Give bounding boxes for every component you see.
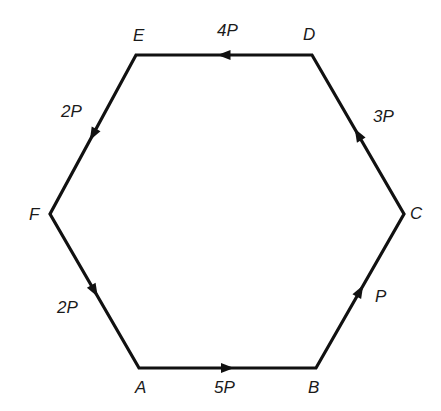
vertex-label-b: B	[308, 378, 319, 397]
arrowhead-icon	[355, 129, 366, 143]
arrowhead-icon	[221, 363, 234, 373]
vertex-label-c: C	[410, 204, 423, 223]
vertex-label-e: E	[133, 26, 145, 45]
force-label-bc: P	[375, 287, 387, 306]
arrowhead-icon	[352, 285, 363, 299]
arrowhead-icon	[90, 126, 101, 140]
arrowhead-icon	[87, 283, 98, 297]
vertex-label-d: D	[303, 25, 315, 44]
labels: A B C D E F 5P P 3P 4P 2P 2P	[29, 21, 423, 397]
vertex-label-f: F	[29, 205, 41, 224]
vertex-label-a: A	[134, 378, 146, 397]
force-arrows	[87, 50, 366, 373]
force-label-ef: 2P	[60, 102, 82, 121]
force-label-de: 4P	[217, 21, 238, 40]
force-label-cd: 3P	[373, 107, 394, 126]
force-label-ab: 5P	[214, 378, 235, 397]
arrowhead-icon	[218, 50, 231, 60]
hexagon-diagram: A B C D E F 5P P 3P 4P 2P 2P	[0, 0, 441, 411]
hexagon-outline	[50, 55, 404, 368]
force-label-fa: 2P	[56, 298, 78, 317]
